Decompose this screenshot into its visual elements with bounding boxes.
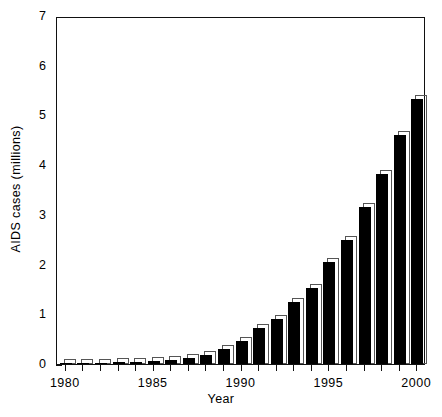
x-tick-mark bbox=[135, 365, 136, 371]
y-tick-label: 2 bbox=[0, 259, 46, 272]
x-tick-mark bbox=[205, 365, 206, 371]
x-tick-label: 1980 bbox=[35, 376, 95, 390]
bar bbox=[411, 99, 423, 364]
bars-container bbox=[57, 18, 424, 364]
bar bbox=[95, 363, 107, 364]
x-tick-label: 1985 bbox=[123, 376, 183, 390]
x-tick-mark bbox=[170, 365, 171, 371]
y-tick-mark bbox=[56, 365, 62, 366]
bar bbox=[359, 207, 371, 364]
x-tick-mark bbox=[293, 365, 294, 371]
x-tick-mark bbox=[311, 365, 312, 371]
bar bbox=[77, 363, 89, 364]
x-tick-mark bbox=[364, 365, 365, 371]
bar bbox=[60, 363, 72, 364]
y-axis-title: AIDS cases (millions) bbox=[9, 99, 23, 279]
x-tick-mark bbox=[416, 365, 417, 371]
x-tick-mark bbox=[223, 365, 224, 371]
x-tick-mark bbox=[65, 365, 66, 371]
y-tick-label: 0 bbox=[0, 358, 46, 371]
y-tick-label: 4 bbox=[0, 159, 46, 172]
y-tick-label: 1 bbox=[0, 308, 46, 321]
bar bbox=[271, 319, 283, 364]
x-axis-title: Year bbox=[0, 392, 442, 406]
x-tick-label: 1990 bbox=[211, 376, 271, 390]
bar bbox=[253, 328, 265, 364]
bar bbox=[394, 135, 406, 364]
x-tick-mark bbox=[276, 365, 277, 371]
x-tick-mark bbox=[381, 365, 382, 371]
bar bbox=[323, 262, 335, 364]
aids-cases-bar-chart: AIDS cases (millions) 01234567 198019851… bbox=[0, 0, 442, 417]
x-tick-mark bbox=[258, 365, 259, 371]
bar bbox=[288, 302, 300, 364]
y-tick-label: 5 bbox=[0, 109, 46, 122]
bar bbox=[200, 355, 212, 364]
x-tick-mark bbox=[399, 365, 400, 371]
x-tick-mark bbox=[328, 365, 329, 371]
y-tick-label: 6 bbox=[0, 60, 46, 73]
bar bbox=[376, 174, 388, 364]
bar bbox=[130, 362, 142, 364]
x-tick-label: 2000 bbox=[386, 376, 442, 390]
bar bbox=[236, 341, 248, 364]
y-tick-label: 3 bbox=[0, 209, 46, 222]
x-tick-mark bbox=[153, 365, 154, 371]
x-tick-mark bbox=[241, 365, 242, 371]
x-tick-mark bbox=[346, 365, 347, 371]
bar bbox=[113, 362, 125, 364]
bar bbox=[148, 361, 160, 364]
y-tick-label: 7 bbox=[0, 10, 46, 23]
bar bbox=[306, 288, 318, 364]
bar bbox=[341, 240, 353, 364]
x-tick-mark bbox=[82, 365, 83, 371]
bar bbox=[165, 360, 177, 364]
x-tick-mark bbox=[188, 365, 189, 371]
x-tick-mark bbox=[100, 365, 101, 371]
bar bbox=[218, 349, 230, 364]
bar bbox=[183, 358, 195, 364]
plot-area bbox=[56, 17, 425, 365]
x-tick-mark bbox=[118, 365, 119, 371]
x-tick-label: 1995 bbox=[298, 376, 358, 390]
